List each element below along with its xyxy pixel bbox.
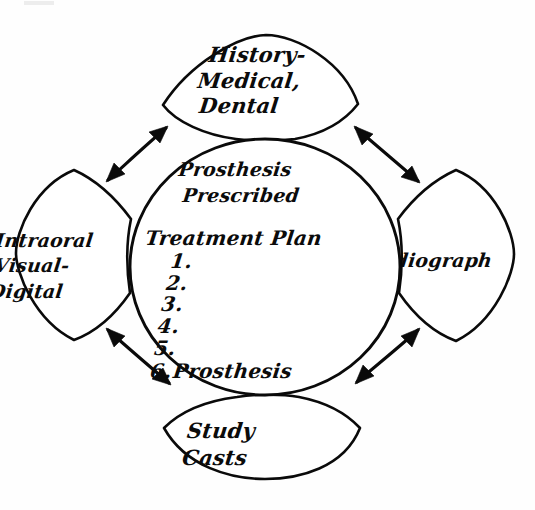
wedge-history-line-2: Medical, <box>195 68 302 93</box>
plan-item-number-5: 5. <box>153 336 177 360</box>
plan-item-number-4: 4. <box>157 314 181 338</box>
wedge-intraoral-group[interactable]: Intraoral Visual- Digital <box>0 170 131 340</box>
plan-item-number-1: 1. <box>169 249 193 273</box>
center-plan-title: Treatment Plan <box>144 226 323 250</box>
arrow-intraoral-history <box>106 126 168 182</box>
wedge-history-group[interactable]: History- Medical, Dental <box>163 35 358 141</box>
cycle-diagram: History- Medical, Dental Study Casts Int… <box>0 0 535 510</box>
center-heading-line-2: Prescribed <box>180 184 300 206</box>
wedge-intraoral-line-2: Visual- <box>0 254 71 276</box>
wedge-study-casts-line-2: Casts <box>181 445 249 470</box>
diagram-canvas: History- Medical, Dental Study Casts Int… <box>0 0 535 510</box>
wedge-history-line-1: History- <box>206 42 307 67</box>
center-heading-line-1: Prosthesis <box>176 158 293 180</box>
center-circle-group[interactable]: Prosthesis Prescribed Treatment Plan 1. … <box>130 139 400 395</box>
arrow-history-radiograph <box>354 126 420 183</box>
wedge-intraoral-line-3: Digital <box>0 280 64 302</box>
arrow-radiograph-studycasts-head-lower <box>355 365 374 384</box>
wedge-intraoral-line-1: Intraoral <box>0 229 95 251</box>
arrow-history-radiograph-head-upper <box>354 126 373 145</box>
wedge-study-casts-group[interactable]: Study Casts <box>164 395 360 479</box>
plan-item-number-3: 3. <box>160 292 184 316</box>
wedge-history-line-3: Dental <box>197 93 280 118</box>
wedge-study-casts-line-1: Study <box>186 418 259 443</box>
plan-item-text-6: Prosthesis <box>171 359 294 383</box>
